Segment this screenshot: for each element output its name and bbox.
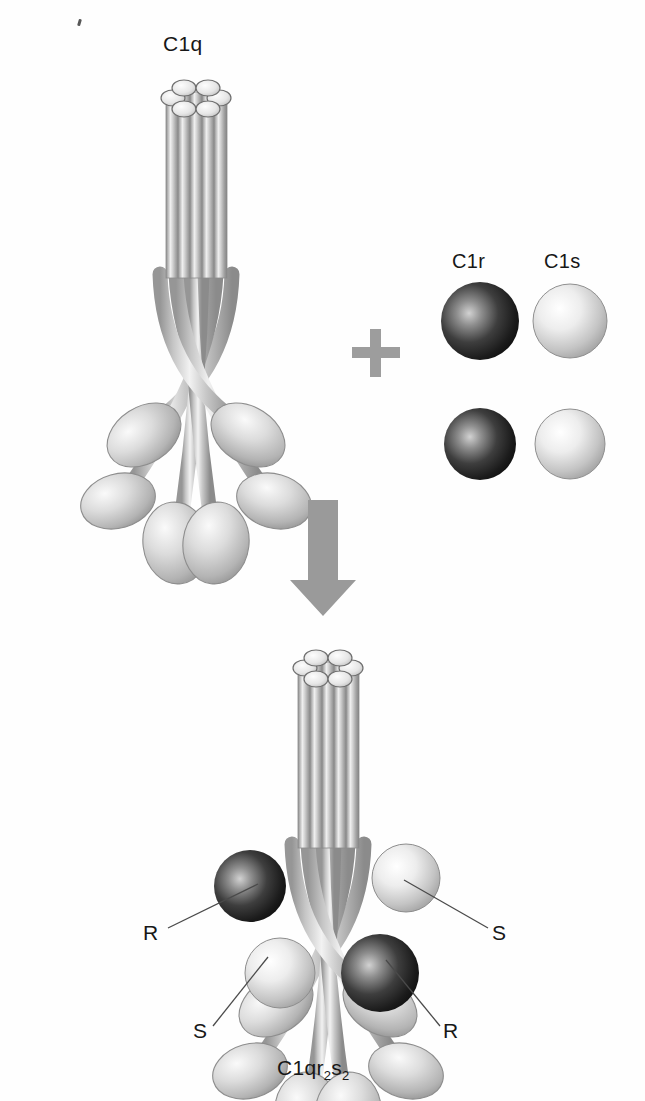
complex-name-s: s	[331, 1056, 342, 1079]
c1s-sphere-2	[535, 409, 605, 479]
c1-complex	[206, 650, 450, 1101]
c1r-sphere-1	[441, 282, 519, 360]
figure-canvas: C1q C1r C1s R S S R C1qr2s2	[0, 0, 645, 1101]
diagram-artwork	[0, 0, 645, 1101]
callout-label-r-right: R	[443, 1019, 458, 1043]
callout-label-r-left: R	[143, 921, 158, 945]
c1q-molecule-top	[74, 80, 318, 588]
label-c1r: C1r	[452, 250, 485, 273]
label-c1q: C1q	[163, 32, 202, 56]
complex-name-stem: C1qr	[277, 1056, 324, 1079]
c1r-sphere-2	[444, 408, 516, 480]
callout-label-s-left: S	[193, 1019, 207, 1043]
bound-c1r-left	[214, 850, 286, 922]
callout-label-s-right: S	[492, 921, 506, 945]
bound-c1r-right	[341, 934, 419, 1012]
bound-c1s-right	[372, 844, 440, 912]
c1s-sphere-1	[533, 284, 607, 358]
complex-sub-s: 2	[342, 1068, 350, 1083]
label-c1-complex: C1qr2s2	[277, 1056, 350, 1083]
plus-operator	[352, 329, 400, 377]
label-c1s: C1s	[544, 250, 580, 273]
